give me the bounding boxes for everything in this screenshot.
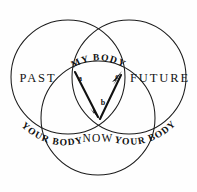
my-body-label: MY BODY — [69, 51, 128, 69]
past-label: PAST — [19, 71, 56, 85]
diagram-canvas: PAST FUTURE MY BODY YOUR BODY YOUR BODY … — [0, 0, 197, 192]
point-a-label: a — [78, 74, 82, 83]
venn-diagram: PAST FUTURE MY BODY YOUR BODY YOUR BODY … — [0, 0, 197, 192]
future-label: FUTURE — [130, 71, 190, 85]
now-label: NOW — [82, 132, 113, 144]
point-b-label: b — [101, 98, 106, 107]
your-body-right-label: YOUR BODY — [114, 118, 178, 147]
point-c-label: c — [115, 72, 119, 81]
